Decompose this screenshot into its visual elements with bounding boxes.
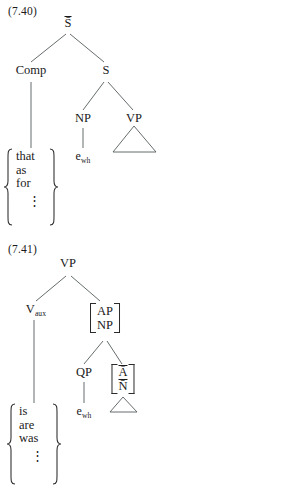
bracket-item-ap: AP [97, 304, 113, 318]
branch-sbar-s [70, 34, 104, 62]
brace-ellipsis: ⋮ [16, 191, 46, 208]
v-aux-base: V [26, 302, 35, 316]
bracket-items-ap-np: AP NP [96, 303, 114, 333]
node-comp: Comp [16, 64, 47, 77]
bracket-item-n-bar: N̄ [118, 379, 127, 393]
vp-triangle [113, 126, 156, 152]
brace-item: are [19, 419, 49, 433]
v-aux-subscript: aux [35, 309, 46, 318]
trace-subscript: wh [81, 156, 90, 165]
brace-item: is [19, 405, 49, 419]
brace-right-delimiter-2 [52, 403, 62, 485]
trace-subscript-2: wh [82, 411, 91, 420]
brace-ellipsis: ⋮ [19, 446, 49, 463]
node-np: NP [75, 112, 91, 125]
brace-right-delimiter [49, 148, 59, 226]
bracket-item-np: NP [97, 318, 113, 332]
branch-apnp-abarnbar [107, 341, 122, 364]
node-v-aux: Vaux [26, 303, 46, 316]
node-s-bar: S̄ [65, 16, 72, 30]
brace-item: for [16, 177, 46, 191]
bracket-item-a-bar-label: Ā [118, 365, 127, 379]
branch-vp-apnp [71, 276, 100, 301]
bracket-items-abar-nbar: Ā N̄ [117, 364, 128, 394]
bracket-ap-np: AP NP [90, 303, 120, 333]
vaux-lexical-items: is are was ⋮ [16, 403, 52, 485]
node-s: S [103, 64, 110, 77]
brace-item: as [16, 164, 46, 178]
abar-nbar-triangle [110, 397, 137, 412]
bracket-abar-nbar: Ā N̄ [111, 364, 134, 394]
brace-left-delimiter-2 [6, 403, 16, 485]
brace-item: was [19, 432, 49, 446]
branch-apnp-qp [84, 341, 103, 364]
node-qp: QP [76, 366, 92, 379]
bracket-item-a-bar: Ā [118, 365, 127, 379]
node-vp: VP [126, 112, 142, 125]
branch-s-vp [108, 82, 133, 110]
branch-s-np [83, 82, 104, 110]
bracket-right-abar-nbar [129, 364, 135, 394]
node-vp-root: VP [60, 257, 76, 270]
node-trace-e-wh: ewh [76, 150, 91, 163]
branch-vp-vaux [36, 276, 66, 301]
bracket-right-ap-np [114, 303, 120, 333]
node-s-bar-label: S̄ [65, 16, 72, 30]
brace-item: that [16, 150, 46, 164]
comp-lexical-brace: that as for ⋮ [3, 148, 59, 226]
node-trace-e-wh-2: ewh [77, 405, 92, 418]
brace-left-delimiter [3, 148, 13, 226]
example-number-7-41: (7.41) [8, 243, 37, 255]
branch-sbar-comp [31, 34, 66, 62]
bracket-item-n-bar-label: N̄ [118, 379, 127, 393]
vaux-lexical-brace: is are was ⋮ [6, 403, 62, 485]
example-number-7-40: (7.40) [8, 5, 37, 17]
comp-lexical-items: that as for ⋮ [13, 148, 49, 226]
